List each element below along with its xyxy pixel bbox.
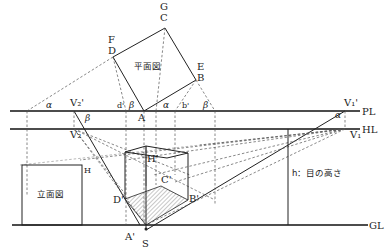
label-v2-prime: V₂' [69,97,84,108]
label-HL: HL [362,124,378,135]
station-point [145,228,148,231]
ray [74,129,215,200]
label-PL: PL [362,106,376,117]
label-B: B [197,72,204,83]
label-D: D [108,45,116,56]
label-v1: V₁ [349,129,361,140]
label-b-prime: b' [182,101,189,110]
label-F: F [108,34,115,45]
label-v2: V₂ [69,129,81,140]
label-A: A [137,112,146,123]
label-d-prime: d' [117,101,124,110]
angle-beta-2: β [202,100,208,110]
elevation-label: 立面図 [37,189,64,199]
angle-beta-1: β [128,100,134,110]
label-GL: GL [369,220,384,231]
label-A-prime: A' [124,231,135,242]
angle-beta-3: β [84,113,90,123]
label-H-elevation: H [84,166,91,175]
label-v1-prime: V₁' [343,97,358,108]
ray [20,129,345,165]
label-C-prime: C' [161,174,171,185]
label-S: S [142,238,149,249]
label-C: C [160,12,168,23]
ray [80,129,345,160]
label-D-prime: D' [113,194,124,205]
plan-label: 平面図 [134,61,161,71]
label-B-prime: B' [189,193,199,204]
label-G: G [160,1,168,12]
label-E: E [197,61,204,72]
angle-alpha-left: α [46,100,52,110]
label-H-prime: H' [147,153,158,164]
angle-alpha-mid: α [163,100,169,110]
perspective-diagram: G C F D E B A 平面図 d' b' α α α β β β V₂' … [0,0,389,250]
eye-height-label: h：目の高さ [292,168,342,178]
cube-base-hatched [125,186,188,225]
angle-alpha-right: α [335,110,341,120]
